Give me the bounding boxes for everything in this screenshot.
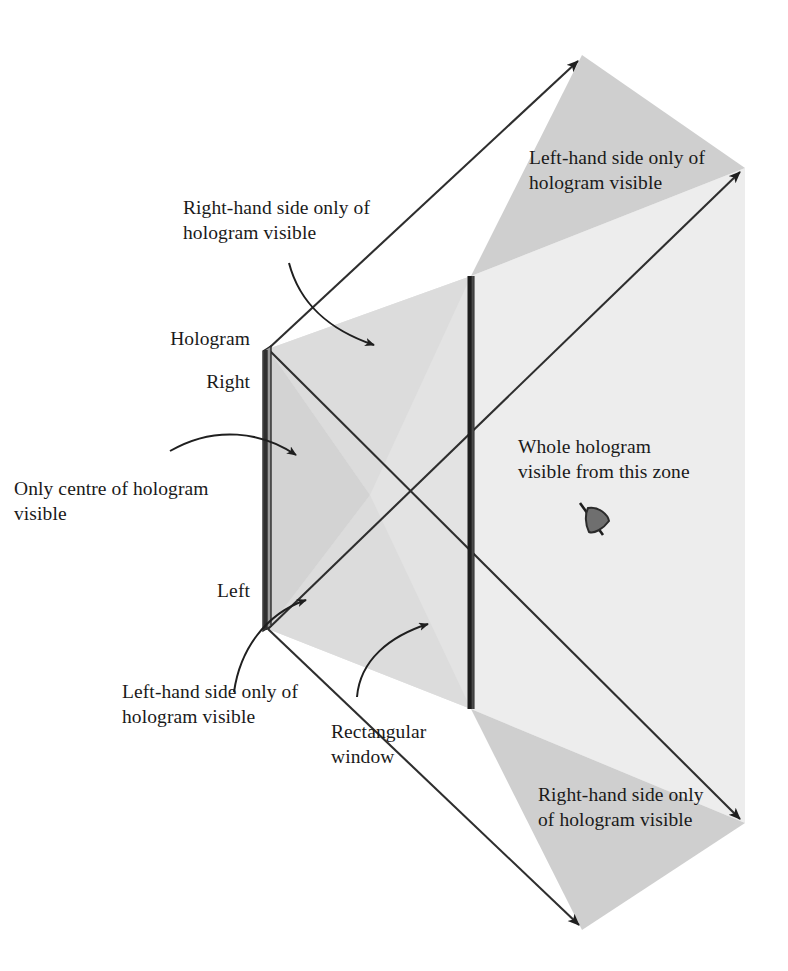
label-rectangular-window: Rectangular window [331,719,481,769]
label-left-hand-top: Left-hand side only of hologram visible [529,145,788,195]
hologram-bar [263,346,271,631]
label-whole-hologram-zone: Whole hologram visible from this zone [518,434,733,484]
label-right-hand-top: Right-hand side only of hologram visible [183,195,433,245]
label-right-edge: Right [40,369,250,394]
diagram-canvas: Right-hand side only of hologram visible… [0,0,788,971]
rectangular-window-bar [468,276,475,709]
label-left-edge: Left [40,578,250,603]
label-right-hand-bottom: Right-hand side only of hologram visible [538,782,788,832]
label-hologram: Hologram [40,326,250,351]
zone-whole-hologram-fill [471,168,745,823]
label-only-centre: Only centre of hologram visible [14,476,264,526]
